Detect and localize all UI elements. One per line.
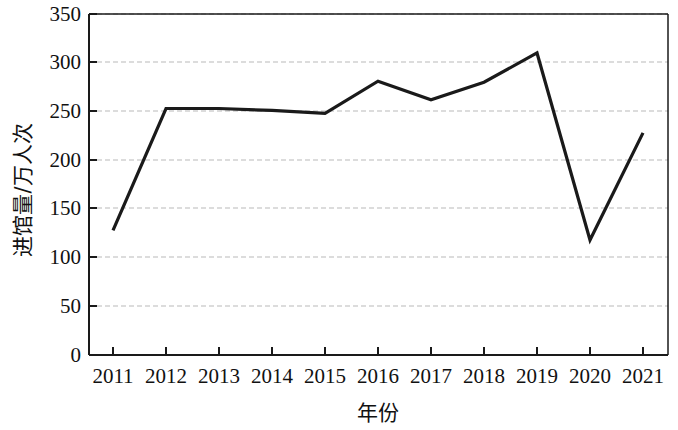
x-tick-label-2017: 2017 — [410, 364, 452, 388]
y-axis-title: 进馆量/万人次 — [11, 123, 35, 256]
x-tick-label-2018: 2018 — [463, 364, 505, 388]
x-tick-label-2011: 2011 — [92, 364, 133, 388]
y-tick-label-50: 50 — [60, 294, 81, 318]
line-chart-canvas: 350 300 250 200 150 100 50 0 2011 2012 2… — [0, 0, 678, 430]
x-tick-label-2012: 2012 — [145, 364, 187, 388]
y-tick-label-300: 300 — [50, 50, 82, 74]
x-tick-label-2019: 2019 — [516, 364, 558, 388]
x-axis-title: 年份 — [357, 401, 399, 425]
x-tick-labels-group: 2011 2012 2013 2014 2015 2016 2017 2018 … — [92, 364, 664, 388]
y-tick-label-200: 200 — [50, 148, 82, 172]
y-tick-label-250: 250 — [50, 99, 82, 123]
x-tick-label-2016: 2016 — [357, 364, 399, 388]
x-tick-label-2013: 2013 — [198, 364, 240, 388]
y-tick-label-150: 150 — [50, 196, 82, 220]
x-tick-label-2021: 2021 — [622, 364, 664, 388]
chart-figure: 350 300 250 200 150 100 50 0 2011 2012 2… — [0, 0, 678, 430]
y-tick-label-350: 350 — [50, 2, 82, 26]
x-tick-label-2020: 2020 — [569, 364, 611, 388]
y-tick-label-0: 0 — [71, 343, 82, 367]
y-tick-label-100: 100 — [50, 245, 82, 269]
x-tick-label-2014: 2014 — [251, 364, 294, 388]
x-tick-label-2015: 2015 — [304, 364, 346, 388]
